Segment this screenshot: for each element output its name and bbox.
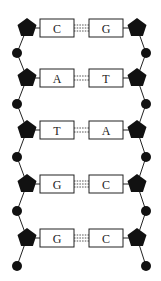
left-base-label: G (53, 232, 62, 246)
deoxyribose-right-icon (128, 120, 147, 138)
deoxyribose-left-icon (18, 18, 37, 36)
right-base-label: T (102, 72, 110, 86)
phosphate-left-icon (12, 48, 22, 58)
phosphate-right-icon (141, 48, 151, 58)
right-base-label: C (102, 178, 110, 192)
phosphate-right-icon (141, 152, 151, 162)
left-base-label: G (53, 178, 62, 192)
phosphate-left-icon (12, 261, 22, 271)
deoxyribose-left-icon (18, 174, 37, 192)
deoxyribose-left-icon (18, 120, 37, 138)
right-base-label: G (102, 22, 111, 36)
phosphate-left-icon (12, 99, 22, 109)
left-base-label: T (53, 124, 61, 138)
deoxyribose-right-icon (128, 174, 147, 192)
right-base-label: A (102, 124, 111, 138)
deoxyribose-right-icon (128, 228, 147, 246)
right-base-label: C (102, 232, 110, 246)
phosphate-left-icon (12, 206, 22, 216)
phosphate-right-icon (141, 206, 151, 216)
phosphate-right-icon (141, 99, 151, 109)
dna-diagram: CGATTAGCGC (0, 0, 161, 281)
deoxyribose-right-icon (128, 68, 147, 86)
deoxyribose-left-icon (18, 68, 37, 86)
phosphate-left-icon (12, 152, 22, 162)
deoxyribose-left-icon (18, 228, 37, 246)
deoxyribose-right-icon (128, 18, 147, 36)
left-base-label: C (53, 22, 61, 36)
phosphate-right-icon (141, 261, 151, 271)
left-base-label: A (53, 72, 62, 86)
